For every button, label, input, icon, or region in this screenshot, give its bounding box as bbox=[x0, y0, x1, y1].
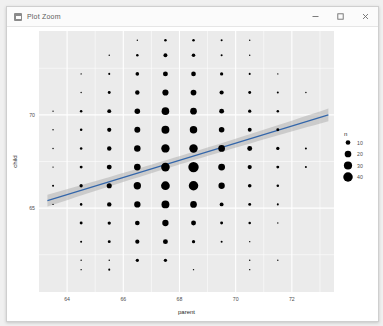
close-button[interactable] bbox=[353, 7, 378, 26]
data-point bbox=[80, 129, 83, 132]
data-point bbox=[137, 40, 138, 41]
data-point bbox=[191, 221, 196, 226]
y-tick-label: 70 bbox=[29, 112, 35, 118]
data-point bbox=[52, 110, 53, 111]
data-point bbox=[136, 72, 140, 76]
data-point bbox=[107, 202, 111, 206]
data-point bbox=[108, 240, 111, 243]
data-point bbox=[249, 55, 250, 56]
data-point bbox=[134, 201, 140, 207]
plot-zoom-window: Plot Zoom 64666870726570parentchildn1020… bbox=[6, 6, 379, 322]
data-point bbox=[192, 39, 195, 42]
x-tick-label: 68 bbox=[177, 296, 183, 302]
data-point bbox=[107, 146, 111, 150]
window-title: Plot Zoom bbox=[27, 13, 61, 20]
data-point bbox=[220, 90, 224, 94]
data-point bbox=[188, 162, 198, 172]
plot-window-icon bbox=[14, 13, 22, 21]
data-point bbox=[277, 222, 278, 223]
data-point bbox=[135, 221, 140, 226]
data-point bbox=[192, 53, 196, 57]
data-point bbox=[220, 222, 223, 225]
data-point bbox=[163, 239, 168, 244]
data-point bbox=[161, 126, 169, 134]
data-point bbox=[277, 184, 280, 187]
data-point bbox=[277, 203, 279, 205]
data-point bbox=[80, 166, 83, 169]
data-point bbox=[190, 201, 197, 208]
data-point bbox=[276, 166, 279, 169]
data-point bbox=[107, 128, 111, 132]
window-controls bbox=[303, 7, 378, 26]
data-point bbox=[218, 183, 224, 189]
data-point bbox=[277, 110, 280, 113]
data-point bbox=[52, 166, 53, 167]
data-point bbox=[136, 259, 139, 262]
data-point bbox=[162, 89, 168, 95]
data-point bbox=[162, 220, 168, 226]
data-point bbox=[277, 92, 279, 94]
data-point bbox=[248, 110, 251, 113]
legend-key-40 bbox=[343, 172, 352, 181]
data-point bbox=[80, 222, 83, 225]
data-point bbox=[134, 127, 140, 133]
data-point bbox=[52, 204, 53, 205]
data-point bbox=[221, 241, 223, 243]
legend-label-20: 20 bbox=[357, 151, 363, 157]
data-point bbox=[218, 145, 225, 152]
legend-key-10 bbox=[346, 140, 351, 145]
maximize-button[interactable] bbox=[328, 7, 353, 26]
legend-key-20 bbox=[345, 151, 352, 158]
plot-canvas: 64666870726570parentchildn10203040 bbox=[7, 27, 378, 321]
data-point bbox=[109, 260, 110, 261]
data-point bbox=[249, 241, 250, 242]
data-point bbox=[276, 128, 279, 131]
data-point bbox=[249, 269, 250, 270]
legend-key-30 bbox=[344, 161, 352, 169]
data-point bbox=[220, 72, 223, 75]
data-point bbox=[191, 90, 197, 96]
data-point bbox=[248, 91, 251, 94]
data-point bbox=[161, 200, 169, 208]
data-point bbox=[80, 110, 83, 113]
data-point bbox=[277, 260, 278, 261]
data-point bbox=[277, 73, 278, 74]
window-titlebar: Plot Zoom bbox=[7, 7, 378, 27]
data-point bbox=[80, 92, 81, 93]
data-point bbox=[305, 166, 307, 168]
y-axis-title: child bbox=[12, 155, 18, 167]
data-point bbox=[305, 92, 306, 93]
data-point bbox=[276, 147, 279, 150]
data-point bbox=[134, 182, 141, 189]
data-point bbox=[248, 184, 252, 188]
data-point bbox=[218, 164, 225, 171]
data-point bbox=[108, 221, 111, 224]
minimize-button[interactable] bbox=[303, 7, 328, 26]
data-point bbox=[164, 39, 167, 42]
data-point bbox=[108, 269, 110, 271]
data-point bbox=[162, 107, 170, 115]
data-point bbox=[163, 53, 167, 57]
data-point bbox=[135, 108, 141, 114]
data-point bbox=[107, 183, 112, 188]
x-tick-label: 70 bbox=[233, 296, 239, 302]
data-point bbox=[161, 163, 170, 172]
data-point bbox=[163, 71, 168, 76]
data-point bbox=[191, 72, 196, 77]
legend-label-40: 40 bbox=[357, 174, 363, 180]
data-point bbox=[189, 144, 197, 152]
data-point bbox=[219, 127, 225, 133]
data-point bbox=[80, 241, 82, 243]
data-point bbox=[135, 90, 139, 94]
data-point bbox=[249, 73, 251, 75]
data-point bbox=[80, 260, 81, 261]
data-point bbox=[134, 145, 141, 152]
legend-title: n bbox=[344, 131, 347, 137]
data-point bbox=[249, 40, 250, 41]
data-point bbox=[221, 39, 223, 41]
data-point bbox=[80, 269, 81, 270]
data-point bbox=[220, 202, 224, 206]
data-point bbox=[190, 108, 197, 115]
data-point bbox=[52, 129, 53, 130]
x-tick-label: 64 bbox=[64, 296, 70, 302]
